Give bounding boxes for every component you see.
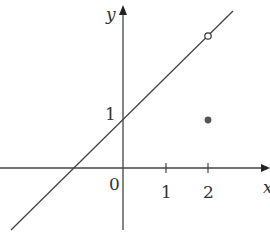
origin-label: 0 [109,174,120,194]
y-axis-arrow-icon [119,5,127,15]
x-axis-arrow-icon [261,164,270,172]
filled-point [205,117,212,124]
function-line [11,11,233,230]
y-axis-label: y [105,4,116,24]
x-tick-2-label: 2 [203,182,214,202]
y-tick-1-label: 1 [105,104,116,124]
x-axis-label: x [263,177,270,197]
x-tick-1-label: 1 [161,182,172,202]
function-graph: y x 0 1 2 1 [0,0,270,250]
hole-point [205,33,211,39]
